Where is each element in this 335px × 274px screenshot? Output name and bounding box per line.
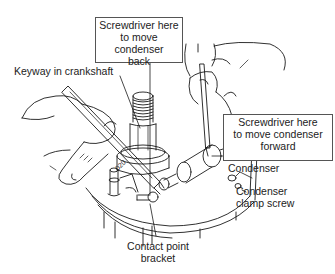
right-hand-drawing <box>185 42 286 116</box>
right-screwdriver-drawing <box>200 64 210 156</box>
label-line: bracket <box>123 252 193 264</box>
label-condenser-clamp-screw: Condenser clamp screw <box>236 185 294 209</box>
label-line: Condenser <box>236 185 294 197</box>
stamped-marking: 020 <box>114 158 127 171</box>
callout-line: Screwdriver here <box>226 116 330 128</box>
label-keyway: Keyway in crankshaft <box>14 65 113 77</box>
callout-line: to move condenser <box>226 128 330 140</box>
callout-screwdriver-forward: Screwdriver here to move condenser forwa… <box>223 114 333 161</box>
callout-screwdriver-back: Screwdriver here to move condenser back <box>95 17 183 63</box>
label-line: clamp screw <box>236 197 294 209</box>
callout-line: Screwdriver here <box>98 19 180 31</box>
left-hand-drawing <box>22 96 116 185</box>
label-contact-point-bracket: Contact point bracket <box>123 240 193 264</box>
label-condenser: Condenser <box>228 162 279 174</box>
callout-line: forward <box>226 140 330 152</box>
diagram-canvas: 020 Screwdriver here to move condenser b… <box>0 0 335 274</box>
callout-line: to move condenser <box>98 31 180 55</box>
label-line: Contact point <box>123 240 193 252</box>
contact-bracket-drawing <box>120 174 158 202</box>
